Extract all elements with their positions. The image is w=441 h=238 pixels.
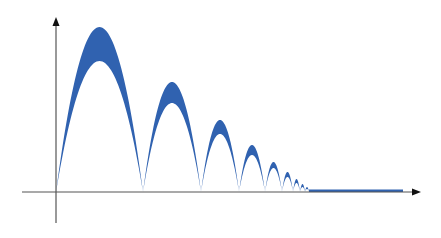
arch-band (143, 82, 201, 192)
axes (22, 17, 421, 223)
x-axis-arrow-icon (412, 189, 421, 196)
bounce-diagram (0, 0, 441, 238)
arch-band (56, 27, 143, 192)
arch-band (305, 187, 309, 192)
chart-stage (0, 0, 441, 238)
arch-band (201, 120, 239, 192)
y-axis-arrow-icon (53, 17, 60, 26)
arch-bands (56, 27, 403, 192)
arch-band (293, 179, 300, 192)
arch-band (300, 184, 305, 192)
arch-band (282, 172, 293, 192)
arch-band (265, 162, 282, 192)
arch-band (239, 145, 265, 192)
